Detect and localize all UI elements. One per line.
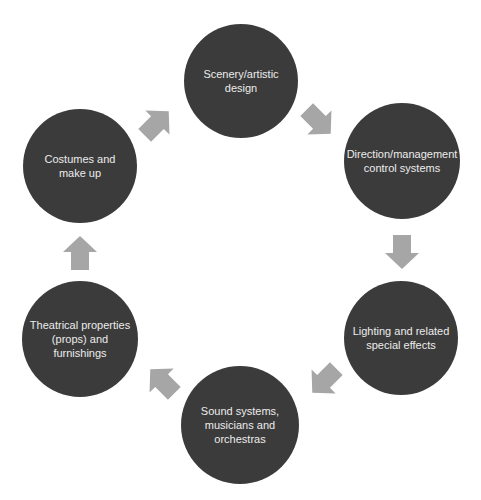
arrow-icon: [138, 357, 186, 405]
node-label: Scenery/artistic design: [203, 67, 278, 95]
node-sound: Sound systems, musicians and orchestras: [181, 366, 299, 484]
arrow-icon: [133, 99, 181, 147]
arrow-icon: [385, 235, 419, 269]
arrow-icon: [295, 98, 343, 146]
node-scenery: Scenery/artistic design: [184, 24, 298, 138]
node-props: Theatrical properties (props) and furnis…: [22, 281, 138, 397]
node-direction: Direction/management control systems: [344, 103, 460, 219]
arrow-icon: [300, 357, 348, 405]
node-label: Direction/management control systems: [347, 147, 458, 175]
node-label: Sound systems, musicians and orchestras: [201, 404, 279, 446]
node-label: Theatrical properties (props) and furnis…: [30, 318, 130, 360]
node-label: Costumes and make up: [45, 152, 116, 180]
node-lighting: Lighting and related special effects: [344, 281, 458, 395]
node-costumes: Costumes and make up: [23, 109, 137, 223]
arrow-icon: [63, 236, 97, 270]
node-label: Lighting and related special effects: [353, 324, 450, 352]
